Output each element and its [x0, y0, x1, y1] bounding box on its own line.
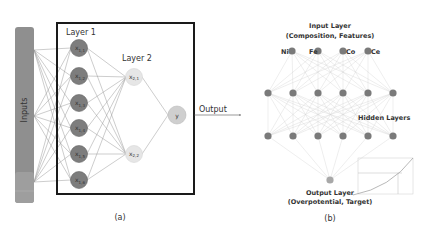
- svg-text:Ce: Ce: [371, 48, 381, 56]
- hidden-node: [314, 89, 321, 96]
- layer2-node: x2,1: [126, 69, 143, 86]
- input-node-ce: Ce: [364, 47, 380, 55]
- panel-a-edges: [34, 48, 168, 182]
- neural-network-figure: Inputs Layer 1 Layer 2 x1,1x1,2x1,3x1,4x…: [0, 0, 429, 240]
- layer1-node: x1,5: [71, 146, 88, 163]
- layer2-label: Layer 2: [122, 54, 152, 63]
- input-node-co: Co: [339, 47, 355, 55]
- hidden-node: [364, 132, 371, 139]
- input-layer-subtitle: (Composition, Features): [286, 32, 375, 40]
- layer1-nodes: x1,1x1,2x1,3x1,4x1,5x1,6: [71, 40, 88, 189]
- inset-plot: [353, 158, 413, 195]
- inputs-label: Inputs: [20, 98, 29, 123]
- input-node-fe: Fe: [309, 47, 322, 55]
- output-layer-node: [326, 176, 333, 183]
- layer2-node: x2,2: [126, 146, 143, 163]
- input-node-ni: Ni: [281, 47, 296, 55]
- hidden-node: [339, 89, 346, 96]
- output-layer-subtitle: (Overpotential, Target): [288, 198, 373, 206]
- hidden-layers-label: Hidden Layers: [358, 114, 410, 122]
- hidden-node: [389, 132, 396, 139]
- output-layer-title: Output Layer: [306, 189, 355, 197]
- svg-text:Co: Co: [346, 48, 356, 56]
- hidden-node: [264, 132, 271, 139]
- hidden-node: [289, 89, 296, 96]
- svg-text:Ni: Ni: [281, 48, 289, 56]
- layer1-node: x1,4: [71, 120, 88, 137]
- layer2-nodes: x2,1x2,2: [126, 69, 143, 163]
- caption-b: (b): [324, 214, 335, 223]
- svg-text:y: y: [175, 112, 179, 120]
- hidden-node: [289, 132, 296, 139]
- svg-text:Fe: Fe: [309, 48, 318, 56]
- layer1-node: x1,1: [71, 40, 88, 57]
- hidden-node: [314, 132, 321, 139]
- hidden-node: [264, 89, 271, 96]
- hidden-node: [339, 132, 346, 139]
- input-layer-title: Input Layer: [309, 22, 352, 30]
- layer1-node: x1,2: [71, 68, 88, 85]
- layer1-label: Layer 1: [66, 28, 96, 37]
- hidden-node: [389, 89, 396, 96]
- output-node: y: [168, 106, 186, 124]
- caption-a: (a): [114, 213, 125, 222]
- layer1-node: x1,3: [71, 95, 88, 112]
- output-label: Output: [199, 105, 227, 114]
- hidden-node: [364, 89, 371, 96]
- inputs-bar: Inputs: [15, 27, 34, 203]
- layer1-node: x1,6: [71, 172, 88, 189]
